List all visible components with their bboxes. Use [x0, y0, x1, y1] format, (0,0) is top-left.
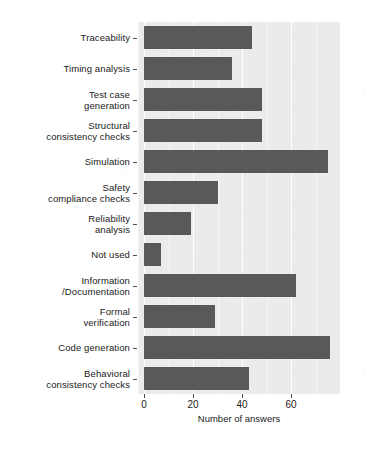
y-axis-label: Safetycompliance checks	[0, 182, 130, 204]
y-axis-label-line: compliance checks	[0, 193, 130, 204]
y-axis-label-line: generation	[0, 100, 130, 111]
y-axis-label: Simulation	[0, 156, 130, 167]
x-axis-tick	[193, 394, 194, 398]
bar-row	[138, 57, 340, 80]
y-axis-tick	[133, 286, 137, 287]
y-axis-label: Not used	[0, 249, 130, 260]
y-axis-label: Timing analysis	[0, 63, 130, 74]
bar-row	[138, 119, 340, 142]
y-axis-label: Traceability	[0, 32, 130, 43]
bar	[144, 119, 262, 142]
y-axis-label-line: Safety	[0, 182, 130, 193]
x-axis-tick-label: 20	[187, 399, 198, 410]
x-axis-tick-label: 60	[285, 399, 296, 410]
y-axis-label-line: Structural	[0, 120, 130, 131]
x-axis-tick	[242, 394, 243, 398]
y-axis-label: Test casegeneration	[0, 89, 130, 111]
bar-row	[138, 305, 340, 328]
bar	[144, 305, 215, 328]
bar	[144, 367, 249, 390]
y-axis-tick	[133, 38, 137, 39]
y-axis-label-line: Information	[0, 275, 130, 286]
bar-row	[138, 26, 340, 49]
bar-row	[138, 274, 340, 297]
y-axis-label-line: Test case	[0, 89, 130, 100]
y-axis-labels: TraceabilityTiming analysisTest casegene…	[0, 22, 130, 394]
y-axis-label-line: Traceability	[0, 32, 130, 43]
y-axis-label-line: consistency checks	[0, 379, 130, 390]
bar	[144, 150, 328, 173]
bar-row	[138, 243, 340, 266]
bar-row	[138, 367, 340, 390]
y-axis-tick	[133, 224, 137, 225]
y-axis-label: Reliabilityanalysis	[0, 213, 130, 235]
y-axis-label-line: Simulation	[0, 156, 130, 167]
y-axis-label: Behavioralconsistency checks	[0, 368, 130, 390]
bar-row	[138, 88, 340, 111]
y-axis-label-line: Reliability	[0, 213, 130, 224]
y-axis-tick	[133, 379, 137, 380]
y-axis-label-line: Formal	[0, 306, 130, 317]
y-axis-tick	[133, 69, 137, 70]
y-axis-label-line: consistency checks	[0, 131, 130, 142]
y-axis-tick	[133, 193, 137, 194]
y-axis-tick	[133, 162, 137, 163]
bar	[144, 57, 232, 80]
y-axis-tick	[133, 100, 137, 101]
bar	[144, 26, 252, 49]
y-axis-label: Formalverification	[0, 306, 130, 328]
bar	[144, 274, 296, 297]
y-axis-label-line: Timing analysis	[0, 63, 130, 74]
y-axis-label-line: Not used	[0, 249, 130, 260]
bar	[144, 212, 191, 235]
y-axis-tick	[133, 317, 137, 318]
x-axis-tick	[291, 394, 292, 398]
bar-row	[138, 212, 340, 235]
y-axis-tick	[133, 348, 137, 349]
bar-row	[138, 150, 340, 173]
bar-row	[138, 336, 340, 359]
bar	[144, 336, 330, 359]
plot-panel	[138, 22, 340, 394]
bars-layer	[138, 22, 340, 394]
y-axis-tick	[133, 131, 137, 132]
x-axis-tick-label: 0	[141, 399, 147, 410]
y-axis-label-line: verification	[0, 317, 130, 328]
x-axis-tick-label: 40	[236, 399, 247, 410]
bar-chart: TraceabilityTiming analysisTest casegene…	[0, 0, 377, 464]
y-axis-label: Code generation	[0, 342, 130, 353]
y-axis-label-line: Behavioral	[0, 368, 130, 379]
bar	[144, 88, 262, 111]
bar	[144, 181, 218, 204]
bar-row	[138, 181, 340, 204]
bar	[144, 243, 161, 266]
y-axis-label: Structuralconsistency checks	[0, 120, 130, 142]
y-axis-label-line: /Documentation	[0, 286, 130, 297]
y-axis-label: Information/Documentation	[0, 275, 130, 297]
y-axis-tick	[133, 255, 137, 256]
x-axis-title: Number of answers	[138, 413, 340, 424]
y-axis-label-line: Code generation	[0, 342, 130, 353]
y-axis-label-line: analysis	[0, 224, 130, 235]
x-axis-tick	[144, 394, 145, 398]
